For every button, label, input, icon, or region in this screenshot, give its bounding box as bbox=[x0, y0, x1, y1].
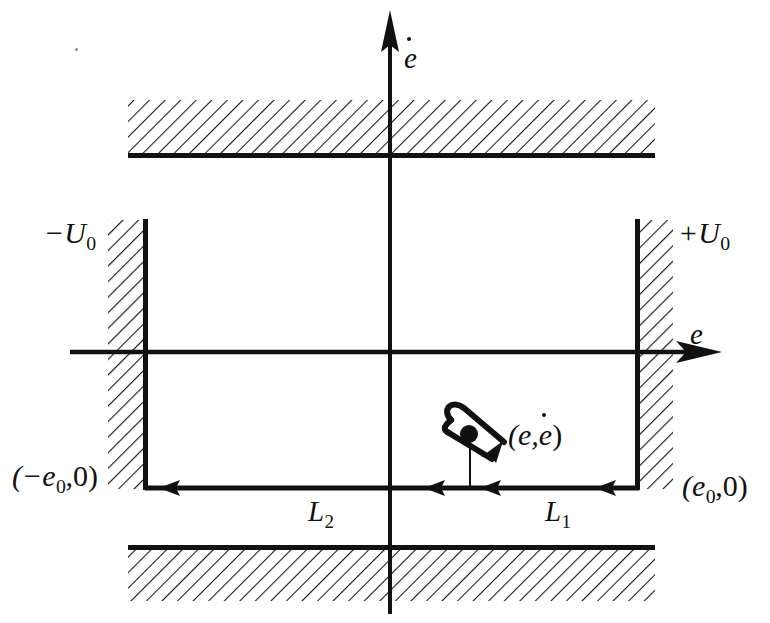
right-wall-label: +U0 bbox=[678, 218, 730, 248]
right-wall bbox=[638, 219, 674, 490]
scan-speck bbox=[75, 48, 78, 51]
horizontal-axis-label: e bbox=[690, 320, 703, 349]
horizontal-axis bbox=[70, 341, 722, 363]
left-boundary-point-label: (−e0,0) bbox=[12, 461, 98, 491]
left-wall bbox=[108, 219, 146, 490]
state-point-marker bbox=[445, 405, 504, 488]
state-point-label: (e,e) bbox=[508, 420, 562, 450]
state-marker-hook-bend bbox=[445, 420, 451, 433]
state-point-dot bbox=[460, 425, 478, 443]
vertical-axis-label: e bbox=[404, 44, 417, 73]
left-wall-label: −U0 bbox=[44, 218, 96, 248]
right-boundary-point-label: (e0,0) bbox=[682, 471, 748, 501]
phase-plane-figure: e e −U0 +U0 (−e0,0) (e0,0) (e,e) L2 L1 bbox=[0, 0, 770, 623]
diagram-canvas bbox=[0, 0, 770, 623]
segment-label-l1: L1 bbox=[545, 497, 571, 526]
segment-label-l2: L2 bbox=[308, 497, 334, 526]
